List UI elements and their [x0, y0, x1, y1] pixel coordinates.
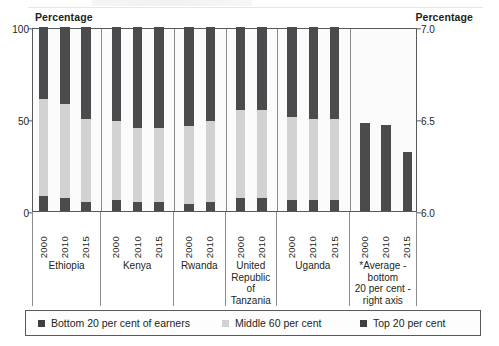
bar-rwanda-2000 — [184, 27, 194, 211]
year-label: 2010 — [257, 236, 267, 258]
group-separator — [174, 29, 175, 211]
segment-bottom-20 — [257, 198, 267, 211]
group-name-label: Uganda — [277, 260, 349, 272]
segment-average-bottom-20 — [381, 125, 391, 211]
x-axis-group-uganda: 200020102015Uganda — [276, 212, 349, 306]
x-axis-label-band: 200020102015Ethiopia200020102015Kenya200… — [32, 212, 417, 306]
segment-top-20 — [206, 27, 216, 121]
year-label: 2015 — [402, 236, 412, 258]
segment-top-20 — [60, 27, 70, 104]
segment-middle-60 — [112, 121, 122, 200]
group-separator — [101, 29, 102, 211]
segment-average-bottom-20 — [403, 152, 413, 211]
segment-bottom-20 — [60, 198, 70, 211]
bars-layer — [33, 29, 416, 211]
page-top-rule — [28, 7, 483, 8]
year-label: 2015 — [81, 236, 91, 258]
segment-bottom-20 — [184, 204, 194, 211]
group-separator — [277, 29, 278, 211]
year-label: 2000 — [287, 236, 297, 258]
y-tick-label: 100 — [12, 24, 29, 35]
bar-uganda-2015 — [330, 27, 340, 211]
segment-top-20 — [287, 27, 297, 117]
bar-uganda-2000 — [287, 27, 297, 211]
legend-label: Bottom 20 per cent of earners — [51, 317, 190, 329]
legend-swatch-icon — [222, 320, 229, 327]
segment-middle-60 — [257, 110, 267, 198]
chart-plot-area: 050100 6.06.57.0 — [32, 28, 417, 212]
segment-bottom-20 — [112, 200, 122, 211]
bar-average-bottom-20-per-cent-right-axis-2010 — [381, 125, 391, 211]
group-name-line: United — [226, 260, 277, 272]
page-top-ghost-text — [92, 0, 252, 6]
bar-kenya-2010 — [133, 27, 143, 211]
segment-top-20 — [309, 27, 319, 119]
x-axis-group-united-republic-of-tanzania: 20002010UnitedRepublicof Tanzania — [225, 212, 277, 306]
year-label: 2000 — [184, 236, 194, 258]
bar-rwanda-2010 — [206, 27, 216, 211]
segment-top-20 — [133, 27, 143, 128]
segment-bottom-20 — [81, 202, 91, 211]
segment-bottom-20 — [133, 202, 143, 211]
segment-bottom-20 — [330, 200, 340, 211]
legend-swatch-icon — [360, 320, 367, 327]
segment-bottom-20 — [39, 196, 49, 211]
segment-top-20 — [257, 27, 267, 110]
legend-item-middle-60: Middle 60 per cent — [222, 317, 321, 329]
segment-middle-60 — [184, 126, 194, 203]
segment-middle-60 — [236, 110, 246, 198]
segment-middle-60 — [206, 121, 216, 202]
segment-middle-60 — [60, 104, 70, 198]
segment-top-20 — [330, 27, 340, 119]
bar-average-bottom-20-per-cent-right-axis-2000 — [360, 123, 370, 211]
segment-middle-60 — [81, 119, 91, 202]
year-label: 2000 — [360, 236, 370, 258]
y2-tick-label: 6.5 — [421, 116, 435, 127]
year-labels: 200020102015 — [350, 214, 416, 258]
year-label: 2000 — [236, 236, 246, 258]
bar-ethiopia-2000 — [39, 27, 49, 211]
year-label: 2010 — [381, 236, 391, 258]
bar-kenya-2000 — [112, 27, 122, 211]
segment-average-bottom-20 — [360, 123, 370, 211]
year-label: 2010 — [60, 236, 70, 258]
legend-swatch-icon — [38, 320, 45, 327]
bar-kenya-2015 — [154, 27, 164, 211]
legend-label: Middle 60 per cent — [235, 317, 321, 329]
legend-item-bottom-20: Bottom 20 per cent of earners — [38, 317, 190, 329]
group-name-line: Rwanda — [174, 260, 225, 272]
segment-top-20 — [154, 27, 164, 128]
year-label: 2015 — [330, 236, 340, 258]
group-name-label: Rwanda — [174, 260, 225, 272]
year-labels: 200020102015 — [33, 214, 100, 258]
segment-bottom-20 — [309, 200, 319, 211]
left-axis-caption: Percentage — [35, 11, 93, 23]
year-label: 2010 — [205, 236, 215, 258]
year-labels: 200020102015 — [101, 214, 173, 258]
segment-middle-60 — [330, 119, 340, 200]
segment-middle-60 — [287, 117, 297, 200]
segment-middle-60 — [39, 99, 49, 197]
segment-bottom-20 — [236, 198, 246, 211]
group-name-line: Ethiopia — [33, 260, 100, 272]
y-tick-label: 0 — [23, 208, 29, 219]
segment-top-20 — [112, 27, 122, 121]
x-axis-group-ethiopia: 200020102015Ethiopia — [32, 212, 100, 306]
bar-united-republic-of-tanzania-2010 — [257, 27, 267, 211]
year-labels: 20002010 — [174, 214, 225, 258]
segment-bottom-20 — [287, 200, 297, 211]
segment-bottom-20 — [154, 202, 164, 211]
year-labels: 200020102015 — [277, 214, 349, 258]
group-name-label: Kenya — [101, 260, 173, 272]
group-name-line: of Tanzania — [226, 283, 277, 306]
legend-label: Top 20 per cent — [373, 317, 445, 329]
bar-uganda-2010 — [309, 27, 319, 211]
segment-bottom-20 — [206, 202, 216, 211]
bar-ethiopia-2010 — [60, 27, 70, 211]
group-separator — [226, 29, 227, 211]
chart-legend: Bottom 20 per cent of earners Middle 60 … — [25, 310, 481, 336]
year-labels: 20002010 — [226, 214, 277, 258]
group-name-label: *Average -bottom20 per cent -right axis — [350, 260, 416, 306]
year-label: 2000 — [111, 236, 121, 258]
segment-middle-60 — [154, 128, 164, 202]
